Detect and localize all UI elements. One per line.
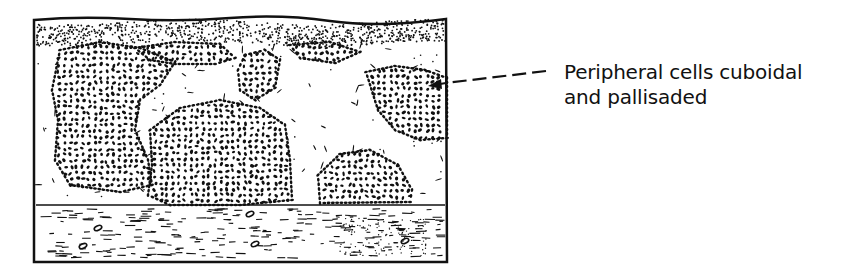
annotation-line-2: and pallisaded: [564, 85, 802, 110]
annotation-line-1: Peripheral cells cuboidal: [564, 60, 802, 85]
annotation-label: Peripheral cells cuboidal and pallisaded: [564, 60, 802, 110]
histology-diagram: [0, 0, 862, 277]
